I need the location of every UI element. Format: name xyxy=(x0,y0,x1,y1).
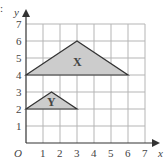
x-tick: 6 xyxy=(125,147,131,159)
origin-label: O xyxy=(14,147,22,159)
x-tick: 7 xyxy=(142,147,148,159)
y-tick: 5 xyxy=(16,52,22,64)
x-tick-labels: 1 2 3 4 5 6 7 xyxy=(40,147,148,159)
triangle-x-label: X xyxy=(73,55,82,69)
y-tick: 3 xyxy=(16,86,22,98)
x-tick: 3 xyxy=(74,147,80,159)
y-tick: 6 xyxy=(16,35,22,47)
y-tick: 4 xyxy=(16,69,22,81)
grid-lines xyxy=(26,24,145,143)
y-tick: 1 xyxy=(16,120,22,132)
y-tick-labels: 1 2 3 4 5 6 7 xyxy=(16,18,22,132)
y-axis-arrow-icon xyxy=(22,9,30,17)
triangle-y-label: Y xyxy=(47,95,56,109)
x-axis-label: x xyxy=(157,147,163,159)
x-tick: 4 xyxy=(91,147,97,159)
x-tick: 1 xyxy=(40,147,46,159)
y-axis-label: y xyxy=(13,6,19,18)
x-tick: 5 xyxy=(108,147,114,159)
corner-mark: : xyxy=(0,2,3,14)
coordinate-grid: y x O : 1 2 3 4 5 6 7 1 2 3 4 5 6 7 X Y xyxy=(0,0,167,160)
y-tick: 7 xyxy=(16,18,22,30)
x-tick: 2 xyxy=(57,147,63,159)
x-axis-arrow-icon xyxy=(152,139,160,147)
y-tick: 2 xyxy=(16,103,22,115)
